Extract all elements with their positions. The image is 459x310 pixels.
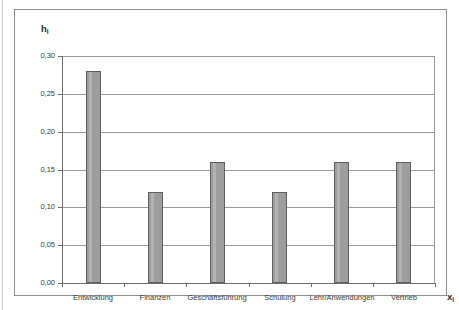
y-tick-mark <box>58 56 62 57</box>
y-tick-label: 0,30 <box>29 51 55 60</box>
x-tick-mark <box>249 283 250 287</box>
y-tick-label: 0,25 <box>29 89 55 98</box>
x-tick-mark <box>124 283 125 287</box>
gridline-0-20 <box>62 132 435 133</box>
x-tick-mark <box>62 283 63 287</box>
x-category-label: Entwicklung <box>73 293 113 302</box>
x-category-label: Schulung <box>264 293 295 302</box>
x-tick-mark <box>186 283 187 287</box>
x-tick-mark <box>311 283 312 287</box>
y-tick-label: 0,05 <box>29 240 55 249</box>
bar <box>148 192 163 283</box>
gridline-0-15 <box>62 170 435 171</box>
x-tick-mark <box>435 283 436 287</box>
y-tick-mark <box>58 170 62 171</box>
y-tick-mark <box>58 132 62 133</box>
page-edge-rule <box>2 0 3 310</box>
gridline-0-05 <box>62 245 435 246</box>
y-tick-mark <box>58 207 62 208</box>
y-tick-mark <box>58 245 62 246</box>
x-category-label: Finanzen <box>140 293 171 302</box>
x-category-label: Vertrieb <box>391 293 417 302</box>
y-tick-label: 0,10 <box>29 202 55 211</box>
gridline-0-25 <box>62 94 435 95</box>
chart-figure-frame: hi xi 0,000,050,100,150,200,250,30 Entwi… <box>14 9 447 296</box>
x-axis-caption-subscript: i <box>452 296 454 303</box>
bar <box>86 71 101 283</box>
bar <box>210 162 225 283</box>
y-tick-mark <box>58 94 62 95</box>
gridline-0-30 <box>62 56 435 57</box>
y-tick-label: 0,15 <box>29 165 55 174</box>
bar <box>334 162 349 283</box>
x-axis-caption: xi <box>447 291 454 303</box>
bar <box>272 192 287 283</box>
y-axis-caption: hi <box>41 23 49 35</box>
x-category-label: Lehr/Anwendungen <box>309 293 374 302</box>
plot-area <box>62 56 435 283</box>
gridline-0-10 <box>62 207 435 208</box>
x-category-label: Geschäftsführung <box>187 293 246 302</box>
y-tick-label: 0,20 <box>29 127 55 136</box>
y-tick-label: 0,00 <box>29 278 55 287</box>
y-axis-caption-subscript: i <box>47 28 49 35</box>
bar <box>396 162 411 283</box>
x-tick-mark <box>373 283 374 287</box>
y-axis-line <box>62 56 63 284</box>
